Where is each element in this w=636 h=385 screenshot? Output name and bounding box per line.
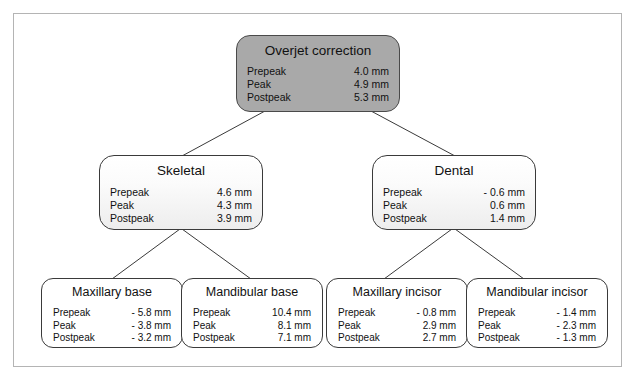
- table-row: Peak - 3.8 mm: [53, 320, 171, 333]
- link-dental-to-mandibular-incisor: [455, 229, 524, 279]
- node-values-table: Prepeak - 0.6 mm Peak 0.6 mm Postpeak 1.…: [383, 186, 525, 225]
- row-value: 7.1 mm: [254, 332, 311, 345]
- row-value: - 1.3 mm: [539, 332, 596, 345]
- node-values-table: Prepeak - 1.4 mm Peak - 2.3 mm Postpeak …: [478, 307, 596, 345]
- table-row: Postpeak 7.1 mm: [193, 332, 311, 345]
- row-value: 0.6 mm: [456, 199, 525, 212]
- link-root-to-dental: [371, 111, 455, 156]
- row-value: 2.7 mm: [399, 332, 456, 345]
- row-value: 4.6 mm: [189, 186, 252, 199]
- row-label: Prepeak: [247, 65, 326, 78]
- row-label: Prepeak: [193, 307, 254, 320]
- row-value: 2.9 mm: [399, 320, 456, 333]
- table-row: Peak 4.9 mm: [247, 78, 389, 91]
- row-value: 8.1 mm: [254, 320, 311, 333]
- node-dental[interactable]: Dental Prepeak - 0.6 mm Peak 0.6 mm Post…: [372, 155, 536, 230]
- row-label: Peak: [193, 320, 254, 333]
- table-row: Prepeak - 1.4 mm: [478, 307, 596, 320]
- row-label: Prepeak: [53, 307, 114, 320]
- node-values-table: Prepeak 4.0 mm Peak 4.9 mm Postpeak 5.3 …: [247, 65, 389, 104]
- row-value: - 3.8 mm: [114, 320, 171, 333]
- node-title: Maxillary incisor: [327, 279, 467, 299]
- row-value: 3.9 mm: [189, 212, 252, 225]
- row-label: Postpeak: [193, 332, 254, 345]
- node-values-table: Prepeak 10.4 mm Peak 8.1 mm Postpeak 7.1…: [193, 307, 311, 345]
- row-label: Prepeak: [338, 307, 399, 320]
- row-value: 1.4 mm: [456, 212, 525, 225]
- row-label: Peak: [478, 320, 539, 333]
- row-value: - 0.8 mm: [399, 307, 456, 320]
- node-title: Mandibular base: [182, 279, 322, 299]
- row-label: Peak: [53, 320, 114, 333]
- table-row: Prepeak - 5.8 mm: [53, 307, 171, 320]
- row-value: - 0.6 mm: [456, 186, 525, 199]
- table-row: Peak 0.6 mm: [383, 199, 525, 212]
- row-value: - 5.8 mm: [114, 307, 171, 320]
- node-title: Overjet correction: [237, 36, 399, 58]
- node-maxillary-incisor[interactable]: Maxillary incisor Prepeak - 0.8 mm Peak …: [326, 278, 468, 348]
- table-row: Prepeak 10.4 mm: [193, 307, 311, 320]
- table-row: Peak 4.3 mm: [110, 199, 252, 212]
- node-skeletal[interactable]: Skeletal Prepeak 4.6 mm Peak 4.3 mm Post…: [99, 155, 263, 230]
- row-value: - 2.3 mm: [539, 320, 596, 333]
- row-value: 5.3 mm: [326, 91, 389, 104]
- row-label: Prepeak: [478, 307, 539, 320]
- row-value: - 1.4 mm: [539, 307, 596, 320]
- node-mandibular-base[interactable]: Mandibular base Prepeak 10.4 mm Peak 8.1…: [181, 278, 323, 348]
- node-mandibular-incisor[interactable]: Mandibular incisor Prepeak - 1.4 mm Peak…: [466, 278, 608, 348]
- row-label: Peak: [247, 78, 326, 91]
- link-dental-to-maxillary-incisor: [384, 229, 452, 279]
- node-values-table: Prepeak - 0.8 mm Peak 2.9 mm Postpeak 2.…: [338, 307, 456, 345]
- row-label: Peak: [338, 320, 399, 333]
- link-skeletal-to-mandibular-base: [182, 229, 251, 279]
- table-row: Prepeak - 0.8 mm: [338, 307, 456, 320]
- table-row: Prepeak 4.6 mm: [110, 186, 252, 199]
- row-label: Prepeak: [383, 186, 456, 199]
- link-skeletal-to-maxillary-base: [112, 229, 180, 279]
- row-value: 4.3 mm: [189, 199, 252, 212]
- node-title: Dental: [373, 156, 535, 178]
- table-row: Peak 2.9 mm: [338, 320, 456, 333]
- row-label: Postpeak: [247, 91, 326, 104]
- node-title: Mandibular incisor: [467, 279, 607, 299]
- row-value: 10.4 mm: [254, 307, 311, 320]
- node-title: Maxillary base: [42, 279, 182, 299]
- node-overjet-correction[interactable]: Overjet correction Prepeak 4.0 mm Peak 4…: [236, 35, 400, 112]
- table-row: Postpeak 1.4 mm: [383, 212, 525, 225]
- table-row: Postpeak 2.7 mm: [338, 332, 456, 345]
- row-label: Postpeak: [110, 212, 189, 225]
- table-row: Postpeak - 1.3 mm: [478, 332, 596, 345]
- table-row: Prepeak - 0.6 mm: [383, 186, 525, 199]
- table-row: Peak 8.1 mm: [193, 320, 311, 333]
- row-label: Peak: [383, 199, 456, 212]
- row-label: Postpeak: [338, 332, 399, 345]
- row-value: 4.0 mm: [326, 65, 389, 78]
- table-row: Postpeak 3.9 mm: [110, 212, 252, 225]
- node-maxillary-base[interactable]: Maxillary base Prepeak - 5.8 mm Peak - 3…: [41, 278, 183, 348]
- table-row: Postpeak - 3.2 mm: [53, 332, 171, 345]
- row-value: 4.9 mm: [326, 78, 389, 91]
- row-label: Prepeak: [110, 186, 189, 199]
- row-label: Postpeak: [478, 332, 539, 345]
- link-root-to-skeletal: [182, 111, 265, 156]
- table-row: Peak - 2.3 mm: [478, 320, 596, 333]
- figure-canvas: Overjet correction Prepeak 4.0 mm Peak 4…: [0, 0, 636, 385]
- table-row: Prepeak 4.0 mm: [247, 65, 389, 78]
- row-value: - 3.2 mm: [114, 332, 171, 345]
- table-row: Postpeak 5.3 mm: [247, 91, 389, 104]
- node-title: Skeletal: [100, 156, 262, 178]
- row-label: Postpeak: [383, 212, 456, 225]
- row-label: Peak: [110, 199, 189, 212]
- node-values-table: Prepeak 4.6 mm Peak 4.3 mm Postpeak 3.9 …: [110, 186, 252, 225]
- row-label: Postpeak: [53, 332, 114, 345]
- node-values-table: Prepeak - 5.8 mm Peak - 3.8 mm Postpeak …: [53, 307, 171, 345]
